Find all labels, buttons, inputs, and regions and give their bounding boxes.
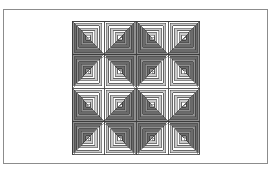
quilt-block: [168, 88, 200, 122]
quilt-block-center: [152, 38, 154, 40]
quilt-block: [104, 122, 136, 156]
quilt-block-center: [184, 71, 186, 73]
quilt-block-center: [120, 71, 122, 73]
quilt-block: [168, 21, 200, 55]
quilt-block-center: [152, 105, 154, 107]
quilt-block-center: [120, 38, 122, 40]
quilt-svg: [72, 21, 200, 155]
quilt-block: [72, 21, 104, 55]
quilt-block: [136, 21, 168, 55]
quilt-block: [104, 88, 136, 122]
quilt-block: [72, 88, 104, 122]
quilt-block: [72, 122, 104, 156]
quilt-block: [168, 55, 200, 89]
quilt-block: [104, 21, 136, 55]
quilt-block-center: [184, 138, 186, 140]
figure-root: [0, 0, 274, 173]
quilt-block-center: [88, 38, 90, 40]
quilt-block-center: [152, 71, 154, 73]
quilt-block-center: [184, 38, 186, 40]
quilt-block-center: [152, 138, 154, 140]
quilt-block-center: [88, 138, 90, 140]
log-cabin-quilt: [72, 21, 200, 155]
quilt-block-center: [88, 71, 90, 73]
quilt-block: [168, 122, 200, 156]
quilt-block-center: [184, 105, 186, 107]
quilt-block: [104, 55, 136, 89]
quilt-block: [136, 55, 168, 89]
quilt-block: [72, 55, 104, 89]
quilt-block: [136, 122, 168, 156]
quilt-block-center: [120, 138, 122, 140]
quilt-block-center: [120, 105, 122, 107]
quilt-block: [136, 88, 168, 122]
figure-frame: [3, 9, 268, 164]
quilt-block-center: [88, 105, 90, 107]
